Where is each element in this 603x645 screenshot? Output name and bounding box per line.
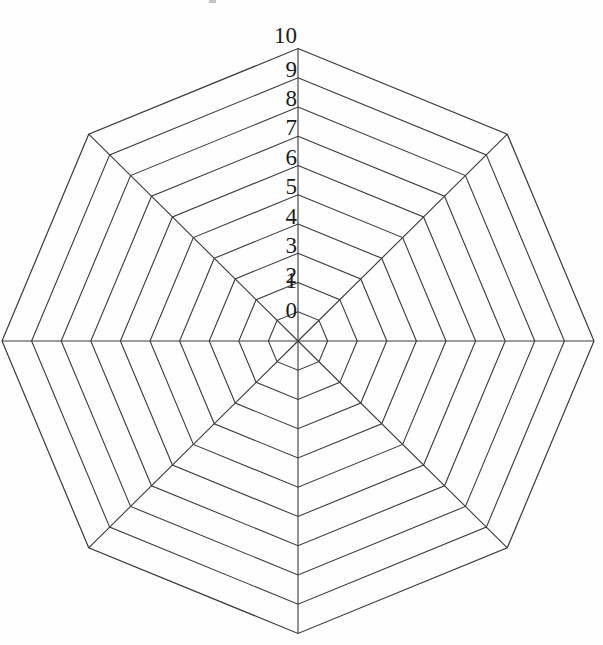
grid-spoke-axis-6 [89,341,298,548]
axis-tick-label-6: 6 [286,146,298,169]
grid-spoke-axis-8 [89,134,298,341]
axis-tick-label-1: 1 [286,269,298,292]
radar-grid-svg [0,0,603,645]
axis-tick-label-0: 0 [286,299,298,322]
grid-spokes-group [2,49,594,634]
axis-tick-label-8: 8 [286,87,298,110]
axis-tick-label-5: 5 [286,175,298,198]
axis-tick-label-9: 9 [286,58,298,81]
grid-spoke-axis-4 [298,341,507,548]
grid-spoke-axis-2 [298,134,507,341]
axis-tick-label-10: 10 [274,24,297,47]
axis-tick-label-4: 4 [286,205,298,228]
radar-chart-figure: 109876543210 [0,0,603,645]
axis-tick-label-7: 7 [286,116,298,139]
axis-tick-label-3: 3 [286,234,298,257]
